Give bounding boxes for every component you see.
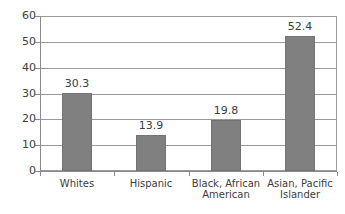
bar-value-label: 13.9 — [126, 120, 176, 132]
y-axis-tick-label: 50 — [8, 36, 36, 47]
y-axis-tick-label: 10 — [8, 139, 36, 150]
x-axis-category-line: Black, African — [189, 178, 263, 189]
y-axis-tick-label: 60 — [8, 10, 36, 21]
x-axis-category-line: Whites — [40, 178, 114, 189]
x-axis-category-line: Islander — [263, 189, 337, 200]
bar — [211, 120, 241, 171]
x-axis-category-line: Asian, Pacific — [263, 178, 337, 189]
x-axis-category-label: Black, AfricanAmerican — [189, 178, 263, 200]
bar-chart: 010203040506030.3Whites13.9Hispanic19.8B… — [0, 0, 345, 214]
bar — [285, 36, 315, 171]
y-axis-tick-label: 30 — [8, 88, 36, 99]
x-axis-category-line: Hispanic — [114, 178, 188, 189]
x-axis-category-label: Whites — [40, 178, 114, 189]
x-axis-category-line: American — [189, 189, 263, 200]
y-axis-tick-label: 40 — [8, 62, 36, 73]
x-axis-category-label: Asian, PacificIslander — [263, 178, 337, 200]
x-axis-tick — [337, 172, 338, 176]
bar — [62, 93, 92, 171]
x-axis-tick — [189, 172, 190, 176]
bar-value-label: 52.4 — [275, 21, 325, 33]
y-axis-line — [40, 16, 41, 172]
x-axis-category-label: Hispanic — [114, 178, 188, 189]
bar — [136, 135, 166, 171]
bar-value-label: 19.8 — [201, 105, 251, 117]
gridline — [40, 16, 337, 17]
y-axis-tick-label: 20 — [8, 113, 36, 124]
x-axis-tick — [263, 172, 264, 176]
y-axis-tick-label: 0 — [8, 165, 36, 176]
bar-value-label: 30.3 — [52, 78, 102, 90]
x-axis-tick — [40, 172, 41, 176]
x-axis-line — [40, 171, 337, 172]
x-axis-tick — [114, 172, 115, 176]
